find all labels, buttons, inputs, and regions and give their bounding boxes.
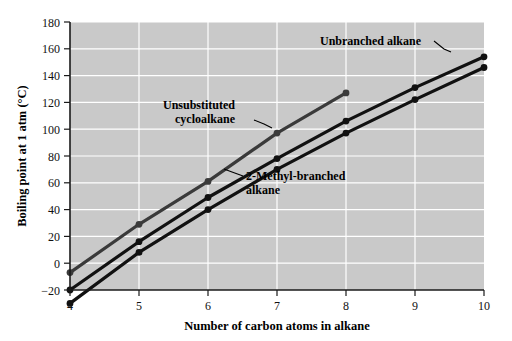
x-tick-label-4: 4 (67, 299, 73, 313)
y-tick-label-60: 60 (48, 176, 60, 190)
x-axis-title: Number of carbon atoms in alkane (184, 319, 370, 333)
x-tick-label-8: 8 (343, 299, 349, 313)
y-tick-label-minus20: −20 (41, 284, 60, 298)
x-tick-label-7: 7 (274, 299, 280, 313)
y-tick-label-120: 120 (42, 96, 60, 110)
x-tick-label-9: 9 (412, 299, 418, 313)
y-tick-label-180: 180 (42, 16, 60, 30)
y-tick-label-0: 0 (54, 257, 60, 271)
y-tick-label-80: 80 (48, 150, 60, 164)
x-tick-label-6: 6 (205, 299, 211, 313)
annotation-cycloalkane-label-line2: cycloalkane (175, 112, 236, 126)
y-tick-label-140: 140 (42, 69, 60, 83)
annotation-2-methyl-label-line1: 2-Methyl-branched (246, 169, 346, 183)
chart-svg: 180 160 140 120 100 80 60 40 20 0 −20 4 … (0, 0, 512, 341)
y-tick-label-160: 160 (42, 42, 60, 56)
annotation-2-methyl-label-line2: alkane (246, 183, 281, 197)
y-tick-label-40: 40 (48, 203, 60, 217)
x-tick-label-5: 5 (136, 299, 142, 313)
y-axis-title: Boiling point at 1 atm (°C) (15, 85, 29, 226)
boiling-point-chart: 180 160 140 120 100 80 60 40 20 0 −20 4 … (0, 0, 512, 341)
annotation-unbranched-alkane-label: Unbranched alkane (320, 34, 422, 48)
annotation-cycloalkane-label-line1: Unsubstituted (163, 98, 235, 112)
y-tick-label-20: 20 (48, 230, 60, 244)
x-tick-label-10: 10 (478, 299, 490, 313)
y-tick-label-100: 100 (42, 123, 60, 137)
